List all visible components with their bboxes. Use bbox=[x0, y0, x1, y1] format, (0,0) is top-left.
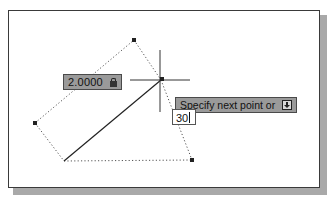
angle-input-field[interactable]: 30 bbox=[172, 109, 196, 125]
drawn-line bbox=[64, 80, 161, 161]
dimension-value[interactable]: 2.0000 bbox=[68, 76, 103, 88]
dotted-rubberband bbox=[35, 40, 192, 161]
dimension-input-box[interactable]: 2.0000 bbox=[63, 74, 122, 90]
lock-icon[interactable] bbox=[110, 78, 117, 87]
down-arrow-icon[interactable] bbox=[282, 100, 292, 110]
angle-value: 30 bbox=[176, 112, 188, 124]
text-caret bbox=[189, 112, 190, 123]
